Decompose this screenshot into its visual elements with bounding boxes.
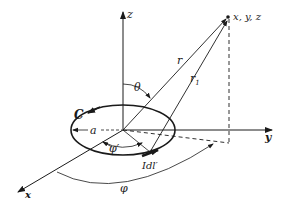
- field-point: [226, 15, 230, 19]
- diagram-canvas: z y x x, y, z r r1 θ C a φ′ Idl′ φ: [0, 0, 284, 204]
- z-axis-label: z: [126, 8, 133, 21]
- x-axis-label: x: [24, 189, 32, 200]
- phi-prime-label: φ′: [109, 142, 120, 155]
- current-element-label: Idl′: [141, 160, 159, 171]
- r-vector: [123, 19, 226, 130]
- ground-projection: [123, 130, 229, 143]
- phi-arc: [57, 144, 213, 184]
- theta-label: θ: [134, 81, 141, 94]
- phi-label: φ: [120, 182, 128, 195]
- r-label: r: [177, 54, 183, 67]
- radius-label: a: [90, 124, 97, 137]
- field-point-label: x, y, z: [233, 11, 262, 22]
- element-radius-line: [123, 130, 150, 152]
- r1-label: r1: [190, 72, 200, 87]
- contour-label: C: [74, 108, 84, 122]
- x-axis: [18, 130, 123, 192]
- r1-vector: [150, 21, 227, 152]
- y-axis-label: y: [264, 131, 273, 144]
